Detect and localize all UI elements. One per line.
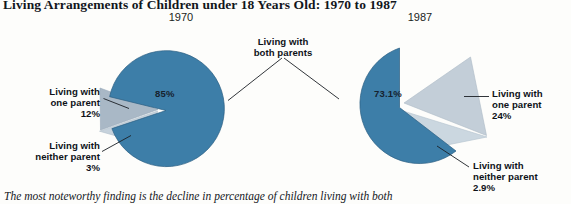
slice-value-1970: 85% bbox=[155, 88, 175, 99]
callout-1970-one-parent-line1: Living with bbox=[8, 86, 100, 97]
callout-both-parents-line1: Living with bbox=[231, 36, 335, 47]
figure-caption: The most noteworthy finding is the decli… bbox=[4, 190, 564, 202]
callout-1970-neither-parent-line2: neither parent bbox=[2, 151, 100, 162]
callout-1970-one-parent-line2: one parent bbox=[8, 97, 100, 108]
pie-1987 bbox=[360, 48, 487, 164]
callout-1987-neither-parent-line2: neither parent bbox=[473, 171, 571, 182]
callout-both-parents-line2: both parents bbox=[231, 47, 335, 58]
callout-1987-one-parent-value: 24% bbox=[492, 110, 571, 121]
callout-1970-one-parent-value: 12% bbox=[8, 108, 100, 119]
callout-1987-one-parent-line1: Living with bbox=[492, 88, 571, 99]
leader-both-parents-left bbox=[228, 58, 282, 101]
callout-1970-neither-parent-value: 3% bbox=[2, 162, 100, 173]
callout-1987-one-parent-line2: one parent bbox=[492, 99, 571, 110]
callout-both-parents: Living with both parents bbox=[231, 36, 335, 58]
pie-1970 bbox=[100, 51, 225, 167]
figure-canvas: Living Arrangements of Children under 18… bbox=[0, 0, 571, 204]
callout-1987-neither-parent-line1: Living with bbox=[473, 160, 571, 171]
leader-both-parents-right bbox=[284, 58, 339, 99]
callout-1970-neither-parent-line1: Living with bbox=[2, 140, 100, 151]
callout-1987-one-parent: Living with one parent 24% bbox=[492, 88, 571, 122]
callout-1970-one-parent: Living with one parent 12% bbox=[8, 86, 100, 120]
callout-1970-neither-parent: Living with neither parent 3% bbox=[2, 140, 100, 174]
slice-value-1987: 73.1% bbox=[374, 88, 402, 99]
callout-1987-neither-parent: Living with neither parent 2.9% bbox=[473, 160, 571, 194]
